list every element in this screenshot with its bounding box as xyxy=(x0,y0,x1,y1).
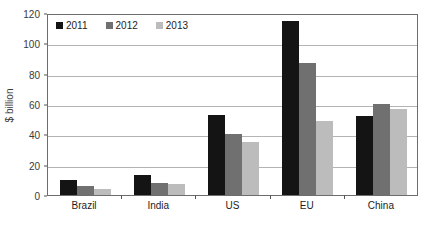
bar-brazil-2012 xyxy=(77,186,94,195)
bars-layer xyxy=(48,15,417,195)
bar-india-2012 xyxy=(151,183,168,195)
x-axis-tick-mark xyxy=(344,195,345,199)
bar-china-2012 xyxy=(373,104,390,195)
legend-swatch-icon xyxy=(56,22,63,29)
legend-item-2012: 2012 xyxy=(106,20,138,31)
x-axis-tick-label: US xyxy=(226,200,240,211)
y-axis-tick-label: 60 xyxy=(29,100,40,111)
bar-brazil-2011 xyxy=(60,180,77,195)
x-axis-tick-mark xyxy=(270,195,271,199)
legend-swatch-icon xyxy=(106,22,113,29)
y-axis-tick-label: 20 xyxy=(29,160,40,171)
bar-us-2013 xyxy=(242,142,259,195)
legend-label: 2012 xyxy=(116,20,138,31)
legend-item-2013: 2013 xyxy=(156,20,188,31)
y-axis-tick-label: 0 xyxy=(34,191,40,202)
x-axis-tick-label: Brazil xyxy=(72,200,97,211)
y-axis-tick-label: 100 xyxy=(23,39,40,50)
legend-label: 2013 xyxy=(166,20,188,31)
x-axis-tick-mark xyxy=(121,195,122,199)
x-axis-tick-marks xyxy=(47,195,418,199)
bar-group-india xyxy=(122,15,196,195)
bar-chart: $ billion 020406080100120 201120122013 B… xyxy=(0,0,432,236)
bar-eu-2013 xyxy=(316,121,333,195)
legend: 201120122013 xyxy=(56,20,188,31)
bar-india-2011 xyxy=(134,175,151,195)
x-axis-tick-label: India xyxy=(147,200,169,211)
bar-india-2013 xyxy=(168,184,185,195)
bar-china-2011 xyxy=(356,116,373,195)
bar-eu-2011 xyxy=(282,21,299,195)
bar-us-2011 xyxy=(208,115,225,195)
legend-label: 2011 xyxy=(66,20,88,31)
bar-china-2013 xyxy=(390,109,407,195)
bar-group-china xyxy=(345,15,419,195)
bar-eu-2012 xyxy=(299,63,316,195)
bar-group-eu xyxy=(271,15,345,195)
y-axis-tick-label: 80 xyxy=(29,69,40,80)
bar-us-2012 xyxy=(225,134,242,195)
legend-swatch-icon xyxy=(156,22,163,29)
y-axis-title-text: $ billion xyxy=(5,88,16,122)
y-axis-tick-label: 120 xyxy=(23,9,40,20)
bar-group-brazil xyxy=(48,15,122,195)
y-axis-tick-labels: 020406080100120 xyxy=(16,14,44,196)
bar-group-us xyxy=(196,15,270,195)
x-axis-tick-labels: BrazilIndiaUSEUChina xyxy=(47,200,418,216)
x-axis-tick-mark xyxy=(195,195,196,199)
x-axis-tick-label: China xyxy=(368,200,394,211)
plot-area: 201120122013 xyxy=(47,14,418,196)
legend-item-2011: 2011 xyxy=(56,20,88,31)
x-axis-tick-label: EU xyxy=(300,200,314,211)
y-axis-tick-label: 40 xyxy=(29,130,40,141)
